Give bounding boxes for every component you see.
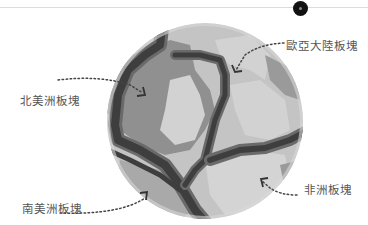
african-plate-label: 非洲板塊 bbox=[304, 181, 352, 197]
pin-marker-icon bbox=[293, 1, 308, 16]
north-american-plate-label: 北美洲板塊 bbox=[20, 92, 80, 108]
south-american-plate-label: 南美洲板塊 bbox=[22, 200, 82, 216]
globe-body bbox=[105, 23, 305, 222]
eurasian-plate-label: 歐亞大陸板塊 bbox=[286, 37, 358, 53]
